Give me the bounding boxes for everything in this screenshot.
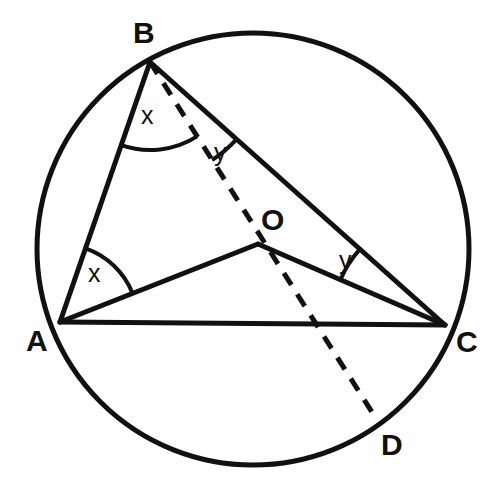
vertex-label-b: B bbox=[133, 18, 155, 48]
vertex-label-d: D bbox=[381, 430, 403, 460]
angle-label-y-at-c: y bbox=[339, 248, 352, 273]
vertex-label-a: A bbox=[26, 326, 48, 356]
vertex-label-o-centre: O bbox=[261, 205, 284, 235]
angle-arc-x-at-B bbox=[121, 136, 197, 150]
geometry-canvas bbox=[0, 0, 500, 494]
geometry-figure: A B C D O x x y y bbox=[0, 0, 500, 494]
angle-label-x-at-b: x bbox=[141, 103, 154, 128]
circumcircle bbox=[37, 33, 469, 465]
angle-label-x-at-a: x bbox=[88, 261, 101, 286]
segment-BD-dashed-diameter bbox=[150, 62, 377, 420]
segment-AC bbox=[60, 322, 445, 325]
vertex-label-c: C bbox=[456, 327, 478, 357]
angle-label-y-at-b: y bbox=[214, 140, 227, 165]
segment-AB bbox=[60, 62, 150, 322]
segment-BC bbox=[150, 62, 445, 325]
